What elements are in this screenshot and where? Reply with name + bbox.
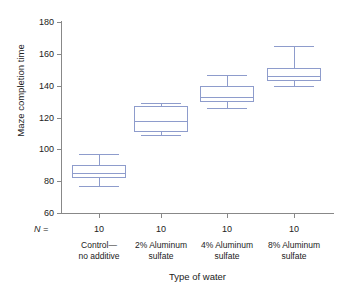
category-label: 2% Aluminumsulfate (124, 240, 198, 262)
y-tick-label: 80 (14, 177, 54, 186)
n-value: 10 (264, 224, 324, 234)
y-axis-title: Maze completion time (15, 21, 26, 161)
median-line (267, 76, 321, 77)
x-tick (294, 213, 295, 218)
category-label-line1: 2% Aluminum (124, 240, 198, 251)
plot-area: 6080100120140160180 Maze completion time… (0, 0, 342, 293)
n-value: 10 (131, 224, 191, 234)
lower-whisker-cap (141, 135, 181, 136)
median-line (134, 121, 188, 122)
y-tick (57, 149, 62, 150)
x-tick (99, 213, 100, 218)
upper-whisker-stem (227, 75, 228, 86)
y-tick (57, 22, 62, 23)
category-label: 4% Aluminumsulfate (190, 240, 264, 262)
lower-whisker-cap (274, 86, 314, 87)
median-line (72, 173, 126, 174)
category-label-line2: sulfate (124, 251, 198, 262)
lower-whisker-cap (79, 186, 119, 187)
n-value: 10 (197, 224, 257, 234)
box-iqr-rect (72, 165, 126, 178)
box-plot-figure: 6080100120140160180 Maze completion time… (0, 0, 342, 293)
lower-whisker-cap (207, 108, 247, 109)
box-iqr-rect (200, 86, 254, 102)
y-tick (57, 54, 62, 55)
y-tick-label: 60 (14, 209, 54, 218)
category-label-line1: 4% Aluminum (190, 240, 264, 251)
category-label-line2: sulfate (190, 251, 264, 262)
n-value: 10 (69, 224, 129, 234)
box-iqr-rect (267, 68, 321, 81)
y-tick (57, 118, 62, 119)
y-tick (57, 86, 62, 87)
y-tick (57, 213, 62, 214)
median-line (200, 97, 254, 98)
category-label-line2: sulfate (257, 251, 331, 262)
x-axis-title: Type of water (61, 271, 334, 282)
box-iqr-rect (134, 106, 188, 132)
lower-whisker-stem (99, 178, 100, 186)
category-label: 8% Aluminumsulfate (257, 240, 331, 262)
x-tick (227, 213, 228, 218)
n-equals-label: N = (34, 224, 48, 234)
upper-whisker-stem (99, 154, 100, 165)
y-tick (57, 181, 62, 182)
category-label-line1: 8% Aluminum (257, 240, 331, 251)
upper-whisker-stem (294, 46, 295, 68)
x-tick (161, 213, 162, 218)
